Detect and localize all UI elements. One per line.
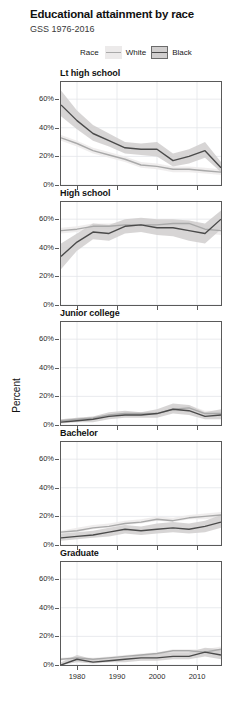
legend-item-black: Black (151, 46, 192, 59)
x-tick-label: 2010 (189, 672, 206, 681)
y-tick-mark (55, 128, 59, 129)
y-tick-label: 40% (28, 603, 54, 612)
y-tick-mark (55, 459, 59, 460)
x-tick-mark (197, 306, 198, 310)
y-axis-label: Percent (11, 366, 22, 426)
x-tick-mark (157, 666, 158, 670)
y-tick-label: 60% (28, 94, 54, 103)
y-tick-label: 60% (28, 574, 54, 583)
y-tick-mark (55, 276, 59, 277)
panel-title: Bachelor (60, 428, 98, 438)
chart-figure: Educational attainment by race GSS 1976-… (0, 0, 239, 728)
legend-title: Race (80, 48, 99, 57)
y-tick-mark (55, 636, 59, 637)
y-tick-label: 40% (28, 123, 54, 132)
x-tick-mark (197, 546, 198, 550)
chart-subtitle: GSS 1976-2016 (30, 24, 95, 34)
x-tick-mark (157, 426, 158, 430)
x-tick-mark (77, 666, 78, 670)
y-tick-label: 0% (28, 180, 54, 189)
legend-label-black: Black (172, 48, 192, 57)
y-tick-label: 0% (28, 300, 54, 309)
y-tick-label: 20% (28, 511, 54, 520)
x-tick-mark (197, 186, 198, 190)
y-tick-label: 60% (28, 214, 54, 223)
panel-title: Junior college (60, 308, 120, 318)
legend-label-white: White (126, 48, 146, 57)
chart-legend: Race White Black (80, 46, 192, 59)
plot-area (60, 81, 222, 186)
y-tick-label: 0% (28, 660, 54, 669)
x-tick-label: 1980 (69, 672, 86, 681)
x-tick-mark (197, 426, 198, 430)
y-tick-label: 20% (28, 151, 54, 160)
panel-title: Graduate (60, 548, 99, 558)
y-tick-mark (55, 516, 59, 517)
legend-item-white: White (105, 46, 146, 59)
y-tick-label: 60% (28, 454, 54, 463)
x-tick-mark (197, 666, 198, 670)
plot-area (60, 201, 222, 306)
y-tick-mark (55, 579, 59, 580)
x-tick-label: 1990 (109, 672, 126, 681)
y-tick-mark (55, 368, 59, 369)
page-title: Educational attainment by race (30, 8, 194, 20)
y-tick-mark (55, 665, 59, 666)
y-tick-label: 40% (28, 483, 54, 492)
x-tick-mark (157, 546, 158, 550)
x-tick-mark (157, 186, 158, 190)
y-tick-mark (55, 185, 59, 186)
panel-title: High school (60, 188, 110, 198)
x-tick-mark (117, 426, 118, 430)
plot-area (60, 321, 222, 426)
x-tick-mark (117, 186, 118, 190)
x-tick-label: 2000 (149, 672, 166, 681)
x-tick-mark (117, 666, 118, 670)
y-tick-label: 0% (28, 420, 54, 429)
plot-area (60, 561, 222, 666)
y-tick-label: 20% (28, 631, 54, 640)
y-tick-label: 40% (28, 363, 54, 372)
y-tick-mark (55, 488, 59, 489)
y-tick-mark (55, 99, 59, 100)
x-tick-mark (157, 306, 158, 310)
y-tick-mark (55, 248, 59, 249)
panel-title: Lt high school (60, 68, 120, 78)
y-tick-label: 40% (28, 243, 54, 252)
plot-area (60, 441, 222, 546)
legend-key-white-icon (105, 46, 122, 59)
y-tick-label: 20% (28, 271, 54, 280)
y-tick-label: 20% (28, 391, 54, 400)
x-tick-mark (117, 546, 118, 550)
legend-key-black-icon (151, 46, 168, 59)
y-tick-mark (55, 608, 59, 609)
y-tick-mark (55, 425, 59, 426)
y-tick-mark (55, 156, 59, 157)
y-tick-mark (55, 339, 59, 340)
y-tick-mark (55, 219, 59, 220)
y-tick-mark (55, 545, 59, 546)
y-tick-mark (55, 396, 59, 397)
y-tick-label: 0% (28, 540, 54, 549)
y-tick-mark (55, 305, 59, 306)
y-tick-label: 60% (28, 334, 54, 343)
